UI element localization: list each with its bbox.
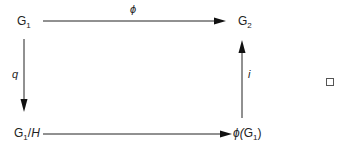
arrow-q-left [21, 39, 28, 112]
label-i: i [248, 68, 250, 80]
node-g2: G2 [238, 14, 252, 28]
node-g1-base: G [17, 14, 26, 28]
node-g2-base: G [238, 14, 247, 28]
node-g1: G1 [17, 14, 31, 28]
qed-square-icon [326, 78, 334, 86]
arrow-bottom [43, 131, 232, 138]
label-phi: ϕ [130, 3, 136, 15]
node-image: ϕ(G1) [233, 126, 261, 140]
node-image-prefix: ϕ( [233, 126, 244, 140]
node-image-base: G [244, 126, 253, 140]
node-g2-sub: 2 [247, 21, 251, 30]
node-quotient-h: H [31, 126, 40, 140]
node-image-suffix: ) [257, 126, 261, 140]
node-quotient-base: G [14, 126, 23, 140]
arrow-i-right [239, 40, 246, 118]
node-quotient: G1/H [14, 126, 40, 140]
label-q: q [12, 68, 18, 80]
diagram-edges [0, 0, 352, 146]
arrow-phi-top [43, 18, 226, 25]
node-g1-sub: 1 [26, 21, 30, 30]
